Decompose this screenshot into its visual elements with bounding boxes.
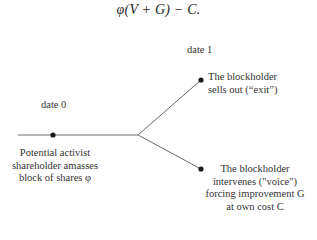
date1-label: date 1 bbox=[187, 44, 212, 57]
start-line-1: Potential activist bbox=[5, 147, 105, 160]
start-line-3: block of shares φ bbox=[5, 172, 105, 185]
voice-line-4: at own cost C bbox=[200, 201, 310, 214]
exit-line-1: The blockholder bbox=[208, 71, 277, 84]
start-line-2: shareholder amasses bbox=[5, 160, 105, 173]
date0-label: date 0 bbox=[41, 99, 66, 112]
voice-line-2: intervenes ("voice") bbox=[200, 176, 310, 189]
voice-line-1: The blockholder bbox=[200, 163, 310, 176]
exit-line-2: sells out (“exit”) bbox=[208, 84, 277, 97]
exit-node-description: The blockholder sells out (“exit”) bbox=[208, 71, 277, 96]
voice-node-description: The blockholder intervenes ("voice") for… bbox=[200, 163, 310, 213]
exit-branch-line bbox=[138, 80, 201, 135]
voice-line-3: forcing improvement G bbox=[200, 188, 310, 201]
exit-node-dot bbox=[198, 77, 203, 82]
start-node-dot bbox=[50, 132, 55, 137]
start-node-description: Potential activist shareholder amasses b… bbox=[5, 147, 105, 185]
voice-branch-line bbox=[138, 135, 201, 169]
